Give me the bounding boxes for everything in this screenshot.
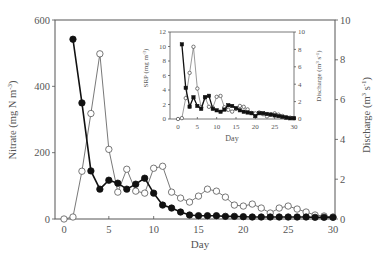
data-point (231, 213, 237, 219)
main-y-axis-right-ticks: 0246810 (335, 15, 351, 225)
data-point (246, 111, 249, 114)
data-point (277, 114, 280, 117)
data-point (188, 71, 191, 74)
inset-y-axis-right-ticks: 0246810 (294, 28, 306, 123)
data-point (97, 186, 103, 192)
data-point (240, 203, 246, 209)
data-point (321, 214, 327, 220)
y-left-tick-label: 200 (34, 147, 50, 158)
data-point (219, 110, 222, 113)
data-point (294, 214, 300, 220)
y-left-tick-label: 6 (163, 72, 167, 80)
data-point (124, 186, 130, 192)
data-point (230, 110, 233, 113)
data-point (254, 114, 257, 117)
data-point (70, 214, 76, 220)
data-point (97, 51, 103, 57)
y-left-tick-label: 600 (34, 15, 50, 26)
data-point (258, 205, 264, 211)
data-point (222, 213, 228, 219)
data-point (124, 166, 130, 172)
inset-y-axis-right-label: Discharge (m3 s-1) (315, 50, 324, 102)
data-point (230, 104, 233, 107)
data-point (195, 193, 201, 199)
x-tick-label: 30 (291, 123, 299, 131)
data-point (115, 189, 121, 195)
data-point (79, 168, 85, 174)
data-point (238, 109, 241, 112)
data-point (330, 214, 336, 220)
data-point (227, 104, 230, 107)
y-right-tick-label: 4 (298, 81, 302, 89)
data-point (88, 110, 94, 116)
y-right-tick-label: 6 (340, 94, 345, 105)
y-left-tick-label: 400 (34, 81, 50, 92)
data-point (223, 108, 226, 111)
data-point (292, 117, 295, 120)
y-right-tick-label: 8 (298, 46, 302, 54)
data-point (196, 104, 199, 107)
inset-x-axis-label: Day (225, 134, 238, 143)
y-right-tick-label: 2 (298, 98, 302, 106)
y-left-tick-label: 2 (163, 101, 167, 109)
data-point (150, 165, 156, 171)
data-point (312, 214, 318, 220)
y-left-tick-label: 4 (163, 86, 167, 94)
data-point (177, 195, 183, 201)
data-point (213, 188, 219, 194)
data-point (269, 113, 272, 116)
data-point (281, 115, 284, 118)
data-point (192, 96, 195, 99)
y-left-tick-label: 8 (163, 57, 167, 65)
data-point (188, 105, 191, 108)
y-left-tick-label: 12 (159, 28, 167, 36)
data-point (150, 190, 156, 196)
x-tick-label: 0 (176, 123, 180, 131)
data-point (207, 105, 210, 108)
main-y-axis-left-label: Nitrate (mg N m-3) (6, 80, 19, 160)
data-point (231, 202, 237, 208)
data-point (142, 190, 148, 196)
data-point (242, 110, 245, 113)
data-point (204, 186, 210, 192)
data-point (215, 95, 218, 98)
data-point (288, 117, 291, 120)
y-left-tick-label: 0 (45, 214, 50, 225)
y-right-tick-label: 8 (340, 54, 345, 65)
data-point (242, 105, 245, 108)
inset-y-axis-left-label: SRP (mg m-3) (142, 48, 151, 88)
data-point (79, 100, 85, 106)
main-y-axis-right-label: Discharge (m3 s-1) (360, 76, 373, 153)
data-point (285, 116, 288, 119)
data-point (261, 112, 264, 115)
data-point (192, 45, 195, 48)
x-tick-label: 20 (238, 224, 249, 235)
data-point (207, 94, 210, 97)
x-tick-label: 30 (328, 224, 339, 235)
data-point (184, 96, 187, 99)
data-point (180, 43, 183, 46)
data-point (215, 109, 218, 112)
data-point (115, 180, 121, 186)
x-tick-label: 20 (252, 123, 260, 131)
data-point (159, 163, 165, 169)
data-point (276, 214, 282, 220)
y-right-tick-label: 0 (298, 115, 302, 123)
x-tick-label: 5 (196, 123, 200, 131)
data-point (273, 114, 276, 117)
data-point (285, 214, 291, 220)
data-point (195, 212, 201, 218)
data-point (265, 112, 268, 115)
data-point (303, 214, 309, 220)
x-tick-label: 25 (283, 224, 294, 235)
y-left-tick-label: 10 (159, 43, 167, 51)
data-point (133, 181, 139, 187)
data-point (240, 213, 246, 219)
x-tick-label: 25 (271, 123, 279, 131)
data-point (222, 194, 228, 200)
data-point (176, 117, 179, 120)
data-point (61, 216, 67, 222)
data-point (180, 116, 183, 119)
y-right-tick-label: 10 (298, 28, 306, 36)
data-point (177, 209, 183, 215)
